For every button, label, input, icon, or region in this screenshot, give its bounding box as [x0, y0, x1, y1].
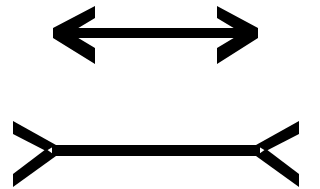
left-fin-bottom	[13, 149, 56, 187]
muller-lyer-diagram: Müller-Lyer illusion	[0, 0, 320, 189]
right-fin-bottom	[256, 149, 299, 187]
bottom-fin-figure	[13, 121, 299, 187]
right-fin-top	[256, 121, 299, 151]
top-shaft	[66, 28, 248, 38]
top-arrow-figure	[53, 6, 258, 64]
illusion-canvas	[0, 0, 320, 189]
left-fin-top	[13, 121, 56, 151]
bottom-shaft	[52, 145, 260, 156]
